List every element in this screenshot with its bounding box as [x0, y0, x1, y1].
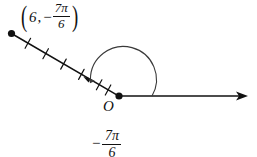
plotted-point-dot	[8, 30, 15, 37]
polar-diagram-canvas: ( 6 , − 7π 6 ) O − 7π 6	[0, 0, 257, 157]
close-paren: )	[72, 4, 78, 29]
tick-mark	[79, 69, 85, 79]
angle-label-fraction: 7π 6	[102, 128, 121, 157]
terminal-side-ray	[8, 30, 119, 96]
fraction-numerator: 7π	[104, 128, 120, 143]
label-comma: ,	[38, 10, 42, 25]
origin-dot	[115, 92, 122, 99]
point-label: ( 6 , − 7π 6 )	[19, 1, 80, 31]
fraction-denominator: 6	[107, 145, 116, 157]
radius-value: 6	[29, 10, 37, 25]
polar-axis-ray	[119, 92, 248, 101]
angle-arc	[90, 46, 156, 96]
fraction-denominator: 6	[57, 17, 66, 31]
fraction-numerator: 7π	[54, 1, 69, 15]
angle-minus-sign: −	[43, 10, 51, 25]
angle-label-minus-sign: −	[92, 136, 100, 151]
origin-label: O	[103, 99, 114, 114]
angle-measure-label: − 7π 6	[92, 128, 121, 157]
angle-fraction: 7π 6	[53, 1, 70, 31]
open-paren: (	[21, 4, 27, 29]
